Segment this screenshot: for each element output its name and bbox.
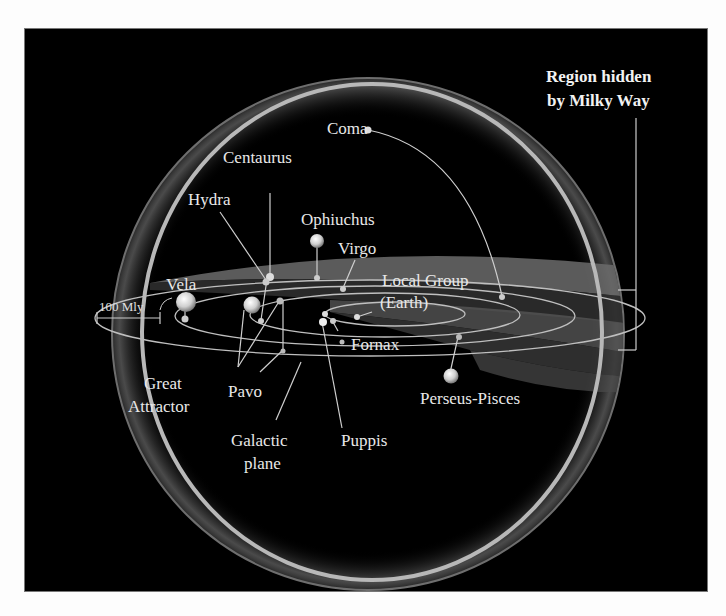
cluster-ophiuchus [310, 234, 324, 248]
label-great: Great [144, 374, 182, 393]
local-universe-diagram: 100 Mly Region hidden by Milky Way Coma … [0, 0, 726, 616]
cluster-pavo [281, 349, 286, 354]
label-hydra: Hydra [188, 190, 231, 209]
label-attractor: Attractor [128, 397, 190, 416]
label-ophiuchus: Ophiuchus [301, 210, 375, 229]
cluster-perseus-pisces [444, 369, 459, 384]
label-local-group: Local Group [382, 271, 468, 290]
label-coma: Coma [327, 119, 368, 138]
label-virgo: Virgo [338, 239, 376, 258]
cluster-virgo [340, 286, 346, 292]
cluster-hydra [263, 279, 270, 286]
label-perseus-pisces: Perseus-Pisces [420, 389, 520, 408]
cluster-puppis [319, 318, 327, 326]
label-vela: Vela [166, 275, 197, 294]
label-fornax: Fornax [351, 335, 400, 354]
label-pavo: Pavo [228, 382, 262, 401]
label-earth: (Earth) [380, 293, 428, 312]
scale-bar-label: 100 Mly [99, 299, 144, 314]
cluster-fornax [340, 340, 345, 345]
label-puppis: Puppis [341, 431, 387, 450]
cluster-vela [176, 292, 196, 312]
cluster-local-group [354, 314, 360, 320]
label-centaurus: Centaurus [223, 148, 292, 167]
label-plane: plane [244, 454, 281, 473]
callout-line1: Region hidden [546, 67, 652, 86]
label-galactic: Galactic [231, 431, 288, 450]
callout-line2: by Milky Way [547, 91, 650, 110]
cluster-great-attractor [244, 297, 261, 314]
